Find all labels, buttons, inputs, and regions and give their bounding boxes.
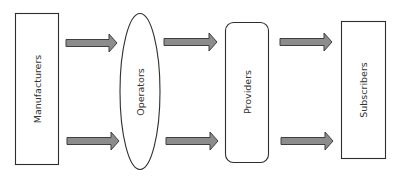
arrow-right-icon	[66, 34, 117, 52]
arrow-right-icon	[280, 33, 332, 51]
node-manufacturers: Manufacturers	[16, 14, 59, 165]
subscribers-label: Subscribers	[358, 62, 369, 118]
arrow-right-icon	[164, 33, 217, 51]
arrow-right-icon	[281, 132, 333, 150]
node-operators: Operators	[120, 14, 160, 170]
arrow-right-icon	[67, 132, 119, 150]
arrow-right-icon	[166, 132, 218, 150]
flow-diagram: Manufacturers Operators Providers Subscr…	[0, 0, 395, 176]
providers-label: Providers	[242, 70, 253, 114]
node-subscribers: Subscribers	[342, 22, 386, 159]
node-providers: Providers	[226, 23, 269, 163]
operators-label: Operators	[135, 68, 146, 116]
manufacturers-label: Manufacturers	[32, 55, 43, 124]
